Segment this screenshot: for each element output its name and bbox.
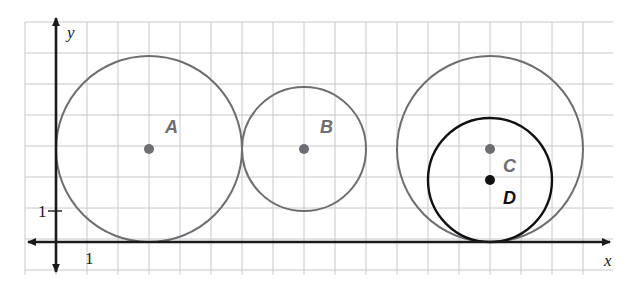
- y-axis-label: y: [65, 23, 75, 42]
- center-point-c: [485, 144, 495, 154]
- label-b: B: [320, 117, 333, 137]
- x-axis-label: x: [603, 251, 612, 270]
- coordinate-plane-svg: ABCD y x 1 1: [0, 0, 629, 296]
- center-point-a: [144, 144, 154, 154]
- y-axis-unit-label: 1: [38, 202, 47, 221]
- x-axis-unit-label: 1: [85, 249, 94, 268]
- figure-background: [0, 0, 629, 296]
- label-c: C: [503, 156, 517, 176]
- center-point-d: [485, 175, 495, 185]
- geometry-figure: ABCD y x 1 1: [0, 0, 629, 296]
- label-a: A: [164, 117, 178, 137]
- center-point-b: [299, 144, 309, 154]
- label-d: D: [503, 188, 516, 208]
